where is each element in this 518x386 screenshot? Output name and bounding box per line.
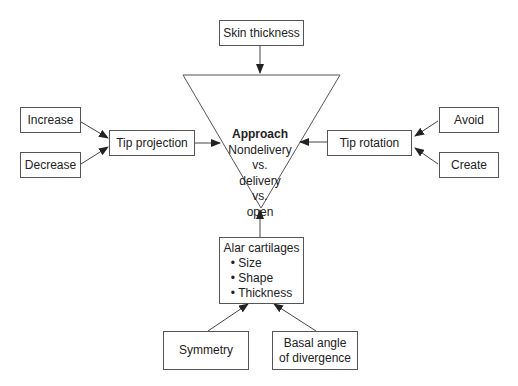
decrease-box: Decrease <box>20 152 81 178</box>
approach-line: open <box>190 205 330 221</box>
skin-thickness-box: Skin thickness <box>219 20 304 46</box>
symmetry-box: Symmetry <box>163 331 249 370</box>
avoid-box: Avoid <box>439 107 499 133</box>
bullet-item: Size <box>231 256 292 271</box>
bullet-item: Thickness <box>231 286 292 301</box>
approach-line: Nondelivery <box>190 143 330 159</box>
increase-box: Increase <box>20 107 81 133</box>
basal-angle-line: of divergence <box>279 351 351 366</box>
tip-projection-box: Tip projection <box>109 130 195 156</box>
alar-cartilages-list: Size Shape Thickness <box>231 256 292 301</box>
approach-text: Approach Nondelivery vs. delivery vs. op… <box>190 127 330 220</box>
alar-cartilages-box: Alar cartilages Size Shape Thickness <box>219 237 304 304</box>
basal-angle-line: Basal angle <box>284 336 347 351</box>
approach-line: delivery <box>190 174 330 190</box>
approach-title: Approach <box>190 127 330 143</box>
approach-line: vs. <box>190 189 330 205</box>
bullet-item: Shape <box>231 271 292 286</box>
approach-line: vs. <box>190 158 330 174</box>
alar-cartilages-title: Alar cartilages <box>223 241 299 256</box>
create-box: Create <box>439 152 499 178</box>
basal-angle-box: Basal angle of divergence <box>272 331 358 370</box>
tip-rotation-box: Tip rotation <box>327 130 412 156</box>
